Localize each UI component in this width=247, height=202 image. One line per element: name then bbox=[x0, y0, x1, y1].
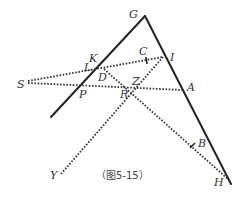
label-S: S bbox=[17, 78, 25, 91]
label-A: A bbox=[186, 81, 195, 94]
figure-caption: （图5-15） bbox=[96, 170, 149, 181]
label-G: G bbox=[129, 8, 138, 21]
dotted-line-I-Y bbox=[61, 57, 163, 174]
label-Z: Z bbox=[131, 75, 140, 88]
label-Y: Y bbox=[50, 169, 59, 182]
geometry-diagram: G K L C I S D P Z R A B H Y （图5-15） bbox=[0, 0, 247, 202]
label-C: C bbox=[139, 45, 148, 58]
label-R: R bbox=[119, 88, 128, 101]
label-D: D bbox=[97, 71, 107, 84]
label-I: I bbox=[169, 51, 175, 64]
label-L: L bbox=[83, 61, 91, 74]
label-B: B bbox=[197, 137, 206, 150]
line-G-left bbox=[51, 16, 145, 117]
line-G-H bbox=[145, 16, 231, 184]
dotted-line-S-A bbox=[28, 83, 183, 90]
dotted-line-D-H bbox=[104, 69, 229, 180]
label-P: P bbox=[78, 88, 87, 101]
label-H: H bbox=[213, 176, 224, 189]
tick-mark-C bbox=[146, 57, 147, 64]
